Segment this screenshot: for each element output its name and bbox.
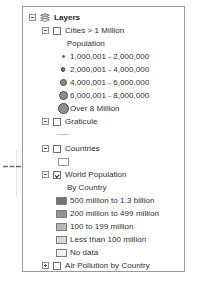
line-symbol-icon [56,134,70,135]
legend-item: 2,000,001 - 4,000,000 [23,63,184,76]
tree-item-world-population[interactable]: World Population [23,168,184,181]
legend-heading-population: Population [23,37,184,50]
expander-minus-icon[interactable] [42,27,49,34]
legend-item: 100 to 199 million [23,220,184,233]
legend-item-label: No data [70,246,98,259]
legend-item-label: Over 8 Million [70,102,120,115]
expander-minus-icon[interactable] [29,14,36,21]
legend-item-label: 500 million to 1.3 billion [70,194,154,207]
fill-swatch-icon [56,210,67,218]
expander-minus-icon[interactable] [42,145,49,152]
tree-item-label: Countries [65,142,100,155]
fill-swatch-icon [56,236,67,244]
tree-item-label: Graticule [65,115,97,128]
tree-item-label: Air Pollution by Country [65,259,150,272]
expander-plus-icon[interactable] [42,262,49,269]
expander-minus-icon[interactable] [42,171,49,178]
legend-item: 4,000,001 - 6,000,000 [23,76,184,89]
layer-visibility-checkbox[interactable] [53,27,61,35]
legend-item: Over 8 Million [23,102,184,115]
tree-item-layers[interactable]: Layers [23,11,184,24]
tree-item-countries[interactable]: Countries [23,142,184,155]
tree-item-label: Layers [54,11,80,24]
background-guide-line [16,150,17,196]
tree-item-label: World Population [65,168,127,181]
layer-tree[interactable]: Layers Cities > 1 Million Population 1,0… [23,7,184,272]
legend-item-label: 1,000,001 - 2,000,000 [70,50,149,63]
fill-swatch-icon [56,223,67,231]
legend-item [23,155,184,168]
legend-item-label: 4,000,001 - 6,000,000 [70,76,149,89]
tree-item-graticule[interactable]: Graticule [23,115,184,128]
legend-item-label: 2,000,001 - 4,000,000 [70,63,149,76]
legend-heading-label: Population [67,37,105,50]
legend-item-label: Less than 100 million [70,233,146,246]
legend-item-label: 6,000,001 - 8,000,000 [70,89,149,102]
legend-item: 200 million to 499 million [23,207,184,220]
fill-swatch-icon [56,197,67,205]
graduated-circle-icon [56,103,70,114]
legend-heading-by-country: By Country [23,181,184,194]
graduated-circle-icon [56,67,70,72]
legend-heading-label: By Country [67,181,107,194]
legend-item: Less than 100 million [23,233,184,246]
layer-visibility-checkbox[interactable] [53,262,61,270]
legend-item: 500 million to 1.3 billion [23,194,184,207]
expander-minus-icon[interactable] [42,118,49,125]
graduated-circle-icon [56,55,70,58]
legend-item: 1,000,001 - 2,000,000 [23,50,184,63]
layer-visibility-checkbox[interactable] [53,118,61,126]
graduated-circle-icon [56,79,70,86]
tree-item-cities[interactable]: Cities > 1 Million [23,24,184,37]
graduated-circle-icon [56,91,70,100]
legend-item: 6,000,001 - 8,000,000 [23,89,184,102]
layer-visibility-checkbox[interactable] [53,171,61,179]
tree-item-air-pollution[interactable]: Air Pollution by Country [23,259,184,272]
layer-visibility-checkbox[interactable] [53,145,61,153]
tree-item-label: Cities > 1 Million [65,24,124,37]
hollow-square-symbol-icon [56,158,70,166]
layers-stack-icon [40,13,50,22]
legend-item: No data [23,246,184,259]
table-of-contents-panel[interactable]: Layers Cities > 1 Million Population 1,0… [22,6,185,272]
fill-swatch-icon [56,249,67,257]
legend-item [23,128,184,141]
legend-item-label: 100 to 199 million [70,220,134,233]
legend-item-label: 200 million to 499 million [70,207,159,220]
